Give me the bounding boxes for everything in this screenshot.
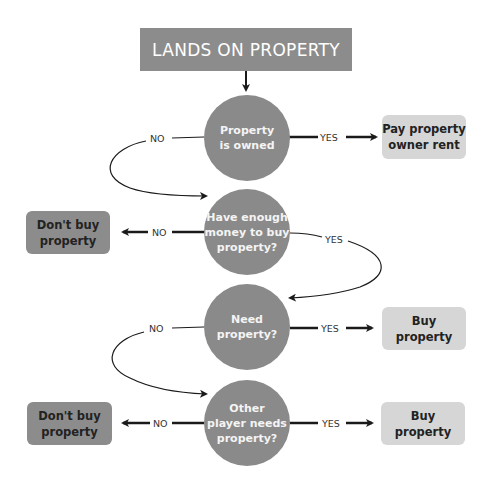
start-node: LANDS ON PROPERTY (140, 28, 352, 71)
outcome-text: property (396, 329, 453, 345)
decision-text: property? (217, 240, 277, 255)
outcome-pay-rent: Pay property owner rent (382, 115, 466, 159)
edge-label-yes: YES (320, 323, 340, 334)
edge-label-no: NO (148, 323, 165, 334)
outcome-text: property (40, 233, 97, 249)
outcome-text: property (41, 424, 98, 440)
start-node-label: LANDS ON PROPERTY (152, 40, 340, 60)
outcome-text: Don't buy (38, 408, 101, 424)
decision-need-property: Need property? (204, 284, 290, 370)
outcome-text: Buy (412, 313, 436, 329)
decision-other-player-needs: Other player needs property? (204, 380, 290, 466)
edge-label-no: NO (151, 227, 168, 238)
edge-label-no: NO (152, 418, 169, 429)
edge-label-no: NO (149, 133, 166, 144)
outcome-text: Pay property (382, 121, 466, 137)
outcome-buy-2: Buy property (381, 402, 465, 445)
outcome-buy-1: Buy property (382, 307, 466, 350)
outcome-dont-buy-1: Don't buy property (26, 211, 110, 254)
decision-text: player needs (207, 416, 287, 431)
decision-property-owned: Property is owned (204, 95, 290, 181)
outcome-text: property (395, 424, 452, 440)
outcome-text: Don't buy (37, 217, 100, 233)
decision-text: property? (217, 327, 277, 342)
edge-label-yes: YES (324, 234, 344, 245)
decision-text: Other (229, 401, 264, 416)
edge-label-yes: YES (321, 418, 341, 429)
edge-label-yes: YES (319, 132, 339, 143)
decision-text: Property (220, 123, 274, 138)
decision-text: property? (217, 431, 277, 446)
outcome-text: owner rent (388, 137, 459, 153)
outcome-dont-buy-2: Don't buy property (27, 402, 112, 445)
outcome-text: Buy (411, 408, 435, 424)
decision-text: Need (231, 312, 263, 327)
decision-text: money to buy (205, 225, 290, 240)
decision-enough-money: Have enough money to buy property? (204, 189, 290, 275)
decision-text: is owned (219, 138, 274, 153)
decision-text: Have enough (206, 210, 287, 225)
